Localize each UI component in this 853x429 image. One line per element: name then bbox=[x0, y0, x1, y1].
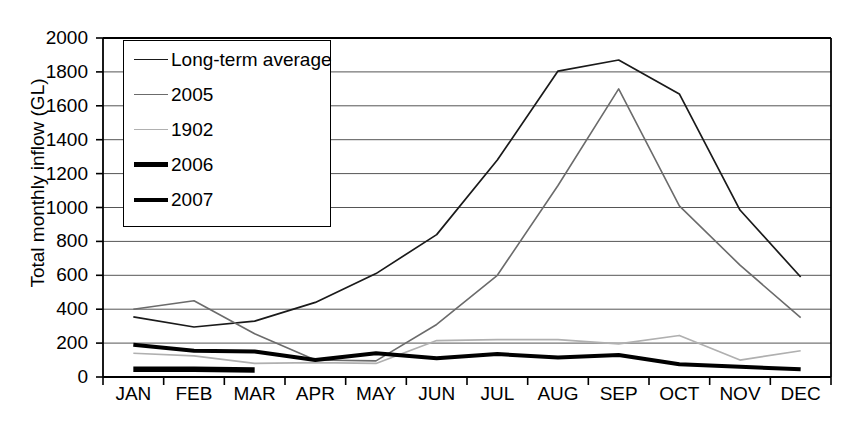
legend-item[interactable]: 2006 bbox=[134, 154, 213, 176]
legend-line-swatch-icon bbox=[134, 158, 168, 172]
x-axis-tick-label: FEB bbox=[164, 384, 225, 403]
legend-line-swatch-icon bbox=[134, 53, 168, 67]
legend-item-label: 2007 bbox=[171, 189, 213, 211]
legend-item-label: 2006 bbox=[171, 154, 213, 176]
legend-item-label: 2005 bbox=[171, 84, 213, 106]
legend-item-label: 1902 bbox=[171, 119, 213, 141]
x-axis-tick-label: JUN bbox=[406, 384, 467, 403]
x-axis-tick-label: NOV bbox=[710, 384, 771, 403]
x-axis-tick-label: JUL bbox=[467, 384, 528, 403]
legend-item[interactable]: 1902 bbox=[134, 119, 213, 141]
legend-item[interactable]: Long-term average bbox=[134, 49, 332, 71]
x-axis-tick-label: AUG bbox=[528, 384, 589, 403]
legend-line-swatch-icon bbox=[134, 123, 168, 137]
x-axis-tick-label: JAN bbox=[103, 384, 164, 403]
series-line bbox=[133, 369, 254, 370]
legend-line-swatch-icon bbox=[134, 193, 168, 207]
legend-item[interactable]: 2005 bbox=[134, 84, 213, 106]
legend-item-label: Long-term average bbox=[171, 49, 332, 71]
x-axis-tick-label: MAR bbox=[224, 384, 285, 403]
chart-legend: Long-term average2005190220062007 bbox=[123, 40, 331, 227]
legend-line-swatch-icon bbox=[134, 88, 168, 102]
x-axis-tick-label: APR bbox=[285, 384, 346, 403]
legend-item[interactable]: 2007 bbox=[134, 189, 213, 211]
x-axis-tick-label: DEC bbox=[770, 384, 831, 403]
chart-container: Total monthly inflow (GL) 20001800160014… bbox=[0, 0, 853, 429]
x-axis-tick-label: SEP bbox=[588, 384, 649, 403]
x-axis-tick-label: OCT bbox=[649, 384, 710, 403]
series-line bbox=[133, 345, 800, 370]
x-axis-tick-label: MAY bbox=[346, 384, 407, 403]
